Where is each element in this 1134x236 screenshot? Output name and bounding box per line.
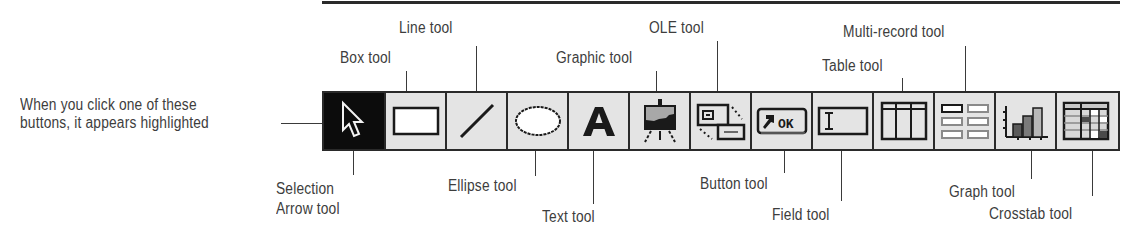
highlight-note-line-1: When you click one of these <box>20 95 197 114</box>
ellipse-icon <box>513 104 563 138</box>
arrow-cursor-icon <box>339 100 369 142</box>
tool-palette: OK <box>322 91 1120 151</box>
field-tool-button[interactable] <box>813 93 874 149</box>
label-selection-tool-line-1: Selection <box>276 179 334 198</box>
ole-tool-button[interactable] <box>691 93 752 149</box>
svg-text:OK: OK <box>778 117 794 132</box>
ok-button-icon: OK <box>755 105 809 137</box>
crosstab-grid-icon <box>1061 100 1111 142</box>
leader-ole-tool <box>717 41 718 91</box>
bar-chart-icon <box>1001 100 1051 142</box>
leader-button-tool <box>784 151 785 173</box>
leader-crosstab-tool <box>1092 151 1093 196</box>
rectangle-icon <box>392 105 440 137</box>
label-line-tool: Line tool <box>399 18 453 37</box>
button-tool-button[interactable]: OK <box>752 93 813 149</box>
multi-record-icon <box>939 101 991 141</box>
leader-graphic-tool <box>656 71 657 91</box>
label-crosstab-tool: Crosstab tool <box>989 204 1072 223</box>
label-graph-tool: Graph tool <box>949 182 1015 201</box>
selection-arrow-tool-button[interactable] <box>324 93 386 149</box>
multi-record-tool-button[interactable] <box>935 93 996 149</box>
label-box-tool: Box tool <box>340 48 391 67</box>
highlight-note-leader <box>281 123 322 124</box>
label-ole-tool: OLE tool <box>649 18 704 37</box>
table-tool-button[interactable] <box>874 93 935 149</box>
table-icon <box>879 100 929 142</box>
leader-multirecord-tool <box>965 46 966 91</box>
leader-graph-tool <box>1031 151 1032 179</box>
label-multirecord-tool: Multi-record tool <box>843 22 945 41</box>
graph-tool-button[interactable] <box>996 93 1057 149</box>
line-tool-button[interactable] <box>447 93 508 149</box>
linked-windows-icon <box>696 101 746 141</box>
label-field-tool: Field tool <box>772 205 830 224</box>
text-field-icon <box>816 104 870 138</box>
ellipse-tool-button[interactable] <box>508 93 569 149</box>
leader-line-tool <box>476 46 477 91</box>
label-table-tool: Table tool <box>822 56 883 75</box>
label-graphic-tool: Graphic tool <box>556 48 632 67</box>
leader-ellipse-tool <box>535 151 536 176</box>
easel-icon <box>639 98 681 144</box>
label-ellipse-tool: Ellipse tool <box>448 176 517 195</box>
label-selection-tool-line-2: Arrow tool <box>276 199 340 218</box>
letter-a-icon <box>581 103 617 139</box>
label-text-tool: Text tool <box>542 207 595 226</box>
leader-box-tool <box>406 71 407 91</box>
line-icon <box>455 101 499 141</box>
leader-selection-tool <box>353 151 354 175</box>
top-rule <box>322 1 1120 4</box>
highlight-note-line-2: buttons, it appears highlighted <box>20 113 209 132</box>
crosstab-tool-button[interactable] <box>1057 93 1115 149</box>
label-button-tool: Button tool <box>700 174 768 193</box>
text-tool-button[interactable] <box>569 93 630 149</box>
graphic-tool-button[interactable] <box>630 93 691 149</box>
leader-text-tool <box>593 151 594 204</box>
leader-table-tool <box>902 78 903 91</box>
leader-field-tool <box>841 151 842 201</box>
box-tool-button[interactable] <box>386 93 447 149</box>
